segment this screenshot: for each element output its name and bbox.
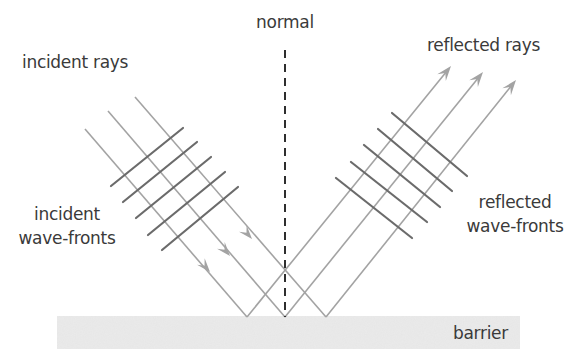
reflected-wavefronts-line2: wave-fronts [458,214,572,238]
incident-wavefront-3 [136,157,211,218]
incident-ray-3 [135,97,326,317]
barrier-texture [57,316,520,349]
reflection-diagram: normal incident rays reflected rays inci… [0,0,577,364]
reflected-ray-2 [285,78,478,317]
reflected-wavefront-2 [378,129,452,191]
reflected-wavefronts-line1: reflected [458,190,572,214]
incident-wavefronts-line1: incident [12,202,122,226]
barrier-label: barrier [453,325,508,342]
reflected-wavefront-5 [336,178,412,238]
reflected-wavefront-1 [392,113,467,176]
reflected-wavefront-4 [351,162,427,222]
reflected-wavefront-3 [364,145,440,207]
incident-wavefronts-label: incident wave-fronts [12,202,122,250]
reflected-wavefronts-label: reflected wave-fronts [458,190,572,238]
reflected-rays-label: reflected rays [427,37,540,54]
incident-wavefront-5 [162,187,238,250]
incident-ray-arrow-icon [239,225,252,239]
incident-wavefronts-line2: wave-fronts [12,226,122,250]
reflected-ray-1 [247,72,446,317]
normal-label: normal [250,14,320,31]
incident-wavefront-4 [148,172,225,235]
incident-wavefront-1 [111,128,183,186]
barrier [57,316,520,349]
reflected-wavefronts [336,113,467,238]
incident-rays-label: incident rays [22,54,128,71]
incident-ray-arrow-icon [217,242,230,256]
incident-wavefront-2 [123,142,197,202]
